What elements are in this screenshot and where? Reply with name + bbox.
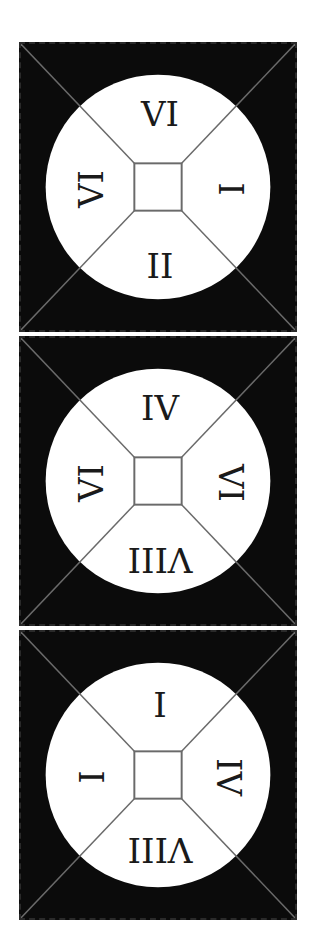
- center-square: [134, 163, 181, 210]
- puzzle-tile-1: VI I II VI: [19, 42, 297, 332]
- center-square: [134, 751, 181, 798]
- tile-1-label-left: VI: [74, 170, 108, 208]
- tile-2-label-left: VI: [74, 464, 108, 502]
- center-square: [134, 457, 181, 504]
- tile-3-label-left: I: [74, 770, 108, 783]
- tile-3-label-right: IV: [212, 758, 246, 796]
- puzzle-tile-2: IV VI VIII VI: [19, 336, 297, 626]
- tile-1-label-top: VI: [141, 97, 179, 131]
- tile-3-label-top: I: [153, 687, 166, 721]
- tile-3-label-bottom: VIII: [128, 833, 193, 867]
- tile-2-label-right: VI: [214, 464, 248, 502]
- tile-2-graphic: [21, 338, 295, 624]
- tile-1-label-bottom: II: [147, 249, 174, 283]
- tile-2-label-top: IV: [141, 391, 179, 425]
- puzzle-tile-3: I IV VIII I: [19, 630, 297, 920]
- tile-1-graphic: [21, 44, 295, 330]
- tile-3-graphic: [21, 632, 295, 918]
- tile-1-label-right: I: [214, 182, 248, 195]
- tile-2-label-bottom: VIII: [128, 543, 193, 577]
